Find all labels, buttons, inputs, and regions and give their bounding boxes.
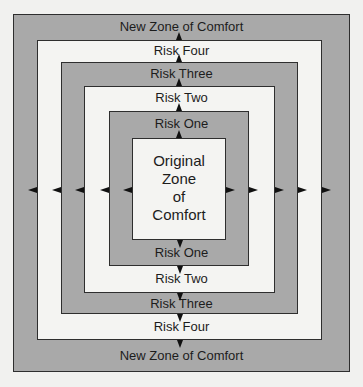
- center-label-original-zone: Original Zone of Comfort: [132, 152, 226, 224]
- center-line-4: Comfort: [132, 206, 226, 224]
- arrow-right-icon: [249, 187, 258, 193]
- arrow-right-icon: [322, 187, 331, 193]
- arrow-up-icon: [176, 32, 182, 40]
- arrow-down-icon: [177, 266, 183, 274]
- arrow-left-icon: [28, 187, 37, 193]
- bottom-label-new-zone: New Zone of Comfort: [0, 348, 363, 364]
- arrow-down-icon: [177, 340, 183, 348]
- arrow-up-icon: [176, 78, 182, 86]
- arrow-right-icon: [298, 187, 307, 193]
- arrow-right-icon: [226, 187, 235, 193]
- arrow-up-icon: [176, 54, 182, 62]
- center-line-3: of: [132, 188, 226, 206]
- arrow-down-icon: [177, 293, 183, 301]
- arrow-up-icon: [176, 130, 182, 138]
- arrow-left-icon: [75, 187, 84, 193]
- arrow-right-icon: [275, 187, 284, 193]
- arrow-left-icon: [52, 187, 61, 193]
- arrow-down-icon: [177, 240, 183, 248]
- arrow-up-icon: [176, 103, 182, 111]
- arrow-down-icon: [177, 314, 183, 322]
- center-line-1: Original: [132, 152, 226, 170]
- center-line-2: Zone: [132, 170, 226, 188]
- arrow-left-icon: [100, 187, 109, 193]
- arrow-left-icon: [123, 187, 132, 193]
